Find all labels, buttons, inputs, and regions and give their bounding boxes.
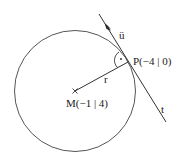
center-label: M(−1 | 4) xyxy=(66,97,108,110)
radius-line xyxy=(75,62,128,91)
direction-arrowhead xyxy=(105,23,112,31)
right-angle-arc xyxy=(114,52,119,68)
center-cross-icon xyxy=(73,89,78,94)
tangent-label: t xyxy=(161,103,164,115)
tangent-line xyxy=(99,14,166,122)
direction-vector-label: ü xyxy=(119,29,125,41)
point-p-label: P(−4 | 0) xyxy=(133,55,172,68)
radius-label: r xyxy=(104,73,108,85)
circle-tangent-diagram: M(−1 | 4) P(−4 | 0) r ü t xyxy=(0,0,179,167)
right-angle-dot xyxy=(120,58,122,60)
